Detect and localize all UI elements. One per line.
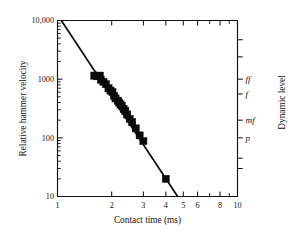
plot-frame — [58, 21, 238, 197]
data-point-marker — [162, 175, 169, 182]
x-axis-title: Contact time (ms) — [114, 215, 181, 226]
x-axis-tick-label: 2 — [110, 201, 114, 210]
x-axis-tick-label: 10 — [233, 201, 241, 210]
x-axis-tick-label: 4 — [164, 201, 168, 210]
log-log-scatter-plot: 12345681010100100010,000fffmfpContact ti… — [0, 0, 297, 244]
y-axis-tick-label: 1000 — [38, 75, 54, 84]
dynamic-level-label: ff — [246, 74, 253, 84]
y-axis-tick-label: 100 — [42, 134, 54, 143]
y-axis-title: Relative hammer velocity — [18, 60, 28, 156]
data-point-marker — [140, 137, 147, 144]
y-axis-tick-label: 10 — [46, 192, 54, 201]
y-axis-tick-label: 10,000 — [31, 16, 54, 25]
x-axis-tick-label: 5 — [181, 201, 185, 210]
data-point-marker — [132, 125, 139, 132]
dynamic-level-axis-title: Dynamic level — [277, 75, 287, 130]
x-axis-tick-label: 3 — [141, 201, 145, 210]
x-axis-tick-label: 8 — [218, 201, 222, 210]
x-axis-tick-label: 1 — [55, 201, 59, 210]
x-axis-tick-label: 6 — [196, 201, 200, 210]
dynamic-level-label: mf — [246, 115, 257, 125]
dynamic-level-label: f — [246, 89, 250, 99]
chart-figure: 12345681010100100010,000fffmfpContact ti… — [0, 0, 297, 244]
dynamic-level-label: p — [245, 133, 251, 143]
